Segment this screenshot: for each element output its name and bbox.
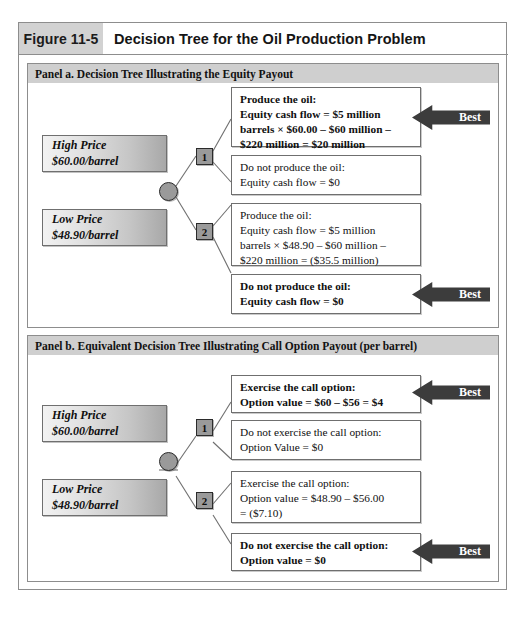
figure-number-label: Figure 11-5 xyxy=(19,23,103,54)
figure-title: Decision Tree for the Oil Production Pro… xyxy=(114,23,426,54)
price-box-high-name: High Price xyxy=(52,138,166,153)
outcome-line: Do not produce the oil: xyxy=(240,160,413,175)
price-box-low-name: Low Price xyxy=(52,212,166,227)
outcome-line: Produce the oil: xyxy=(240,208,413,223)
outcome-line: Equity cash flow = $5 million xyxy=(240,223,413,238)
outcome-line: Option Value = $0 xyxy=(240,440,413,455)
panel-a: Panel a. Decision Tree Illustrating the … xyxy=(27,63,499,328)
panel-b-tree: High Price $60.00/barrel Low Price $48.9… xyxy=(28,355,498,581)
price-box-high-value: $60.00/barrel xyxy=(52,424,166,439)
best-arrow: Best xyxy=(412,380,490,405)
outcome-line: Equity cash flow = $5 million xyxy=(240,107,413,122)
decision-node-2: 2 xyxy=(196,492,213,509)
decision-node-1: 1 xyxy=(196,419,213,436)
outcome-box: Exercise the call option: Option value =… xyxy=(231,471,421,523)
panel-b: Panel b. Equivalent Decision Tree Illust… xyxy=(27,335,499,582)
best-arrow: Best xyxy=(412,105,490,130)
price-box-low: Low Price $48.90/barrel xyxy=(42,209,167,246)
outcome-box: Do not exercise the call option: Option … xyxy=(231,533,421,571)
outcome-line: Equity cash flow = $0 xyxy=(240,175,413,190)
best-arrow: Best xyxy=(412,282,490,307)
best-arrow-label: Best xyxy=(459,110,481,125)
outcome-line: barrels × $48.90 – $60 million – xyxy=(240,238,413,253)
outcome-box: Do not exercise the call option: Option … xyxy=(231,420,421,460)
title-divider xyxy=(19,54,508,55)
chance-node xyxy=(159,182,178,201)
outcome-line: = ($7.10) xyxy=(240,506,413,521)
outcome-line: $220 million = $20 million xyxy=(240,137,413,152)
price-box-low: Low Price $48.90/barrel xyxy=(42,479,167,516)
outcome-line: Do not exercise the call option: xyxy=(240,425,413,440)
outcome-box: Produce the oil: Equity cash flow = $5 m… xyxy=(231,203,421,266)
outcome-box: Do not produce the oil: Equity cash flow… xyxy=(231,155,421,195)
decision-node-1: 1 xyxy=(196,148,213,165)
outcome-line: barrels × $60.00 – $60 million – xyxy=(240,122,413,137)
figure-title-row: Figure 11-5 Decision Tree for the Oil Pr… xyxy=(19,23,506,54)
panel-a-tree: High Price $60.00/barrel Low Price $48.9… xyxy=(28,83,498,327)
price-box-high-name: High Price xyxy=(52,408,166,423)
outcome-line: Do not exercise the call option: xyxy=(240,538,413,553)
price-box-high-value: $60.00/barrel xyxy=(52,154,166,169)
best-arrow-label: Best xyxy=(459,385,481,400)
decision-node-2: 2 xyxy=(196,223,213,240)
outcome-line: Option value = $60 – $56 = $4 xyxy=(240,395,413,410)
price-box-low-value: $48.90/barrel xyxy=(52,498,166,513)
outcome-box: Exercise the call option: Option value =… xyxy=(231,375,421,413)
outcome-line: Exercise the call option: xyxy=(240,380,413,395)
panel-a-header: Panel a. Decision Tree Illustrating the … xyxy=(28,64,498,83)
outcome-line: Equity cash flow = $0 xyxy=(240,294,413,309)
figure-page: Figure 11-5 Decision Tree for the Oil Pr… xyxy=(0,0,525,618)
best-arrow: Best xyxy=(412,539,490,564)
price-box-high: High Price $60.00/barrel xyxy=(42,135,167,172)
outcome-line: Option value = $48.90 – $56.00 xyxy=(240,491,413,506)
outcome-line: Produce the oil: xyxy=(240,92,413,107)
price-box-low-name: Low Price xyxy=(52,482,166,497)
price-box-high: High Price $60.00/barrel xyxy=(42,405,167,442)
outcome-box: Do not produce the oil: Equity cash flow… xyxy=(231,274,421,314)
price-box-low-value: $48.90/barrel xyxy=(52,228,166,243)
best-arrow-label: Best xyxy=(459,544,481,559)
figure-frame: Figure 11-5 Decision Tree for the Oil Pr… xyxy=(18,22,507,590)
outcome-line: Option value = $0 xyxy=(240,553,413,568)
chance-node xyxy=(159,452,178,471)
panel-b-header: Panel b. Equivalent Decision Tree Illust… xyxy=(28,336,498,355)
outcome-line: Do not produce the oil: xyxy=(240,279,413,294)
outcome-box: Produce the oil: Equity cash flow = $5 m… xyxy=(231,87,421,147)
outcome-line: $220 million = ($35.5 million) xyxy=(240,253,413,268)
best-arrow-label: Best xyxy=(459,287,481,302)
outcome-line: Exercise the call option: xyxy=(240,476,413,491)
